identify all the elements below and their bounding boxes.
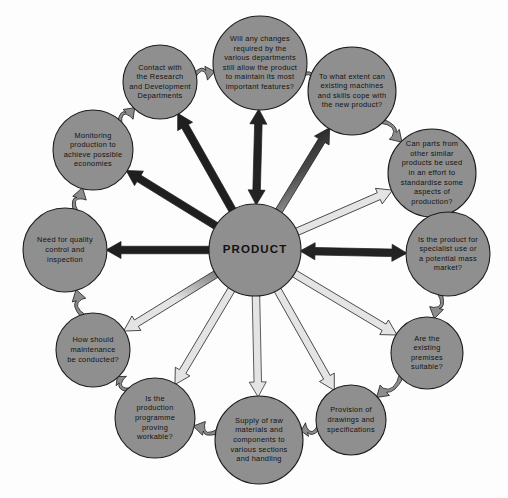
node-quality-control-inspection[interactable]: Need for qualitycontrol andinspection bbox=[23, 208, 107, 292]
node-label-maintenance-conducted: How shouldmaintenancebe conducted? bbox=[67, 335, 119, 363]
node-drawings-specifications[interactable]: Provision ofdrawings andspecifications bbox=[316, 385, 386, 455]
node-label-existing-premises: Are theexistingpremisessuitable? bbox=[411, 334, 443, 372]
node-specialist-or-mass-market[interactable]: Is the product forspecialist use ora pot… bbox=[406, 212, 490, 296]
spoke-arrow-standardise-parts bbox=[293, 182, 396, 239]
node-label-drawings-specifications: Provision ofdrawings andspecifications bbox=[327, 405, 375, 433]
ring-arrow-maintenance-conducted-to-quality-control-inspection bbox=[72, 289, 86, 317]
node-monitoring-production-economies[interactable]: Monitoringproduction toachieve possiblee… bbox=[53, 110, 133, 190]
spoke-arrow-changes-departments bbox=[248, 109, 268, 205]
node-label-product: PRODUCT bbox=[223, 243, 288, 255]
node-standardise-parts[interactable]: Can parts fromother similarproducts be u… bbox=[388, 129, 476, 217]
spoke-arrow-specialist-or-mass-market bbox=[300, 242, 407, 261]
node-label-existing-machines-skills: To what extent canexisting machinesand s… bbox=[318, 72, 387, 110]
spoke-arrow-quality-control-inspection bbox=[106, 242, 210, 259]
node-label-changes-departments: Will any changesrequired by thevarious d… bbox=[223, 34, 297, 91]
spoke-arrow-monitoring-production-economies bbox=[122, 163, 221, 233]
node-label-research-development-contact: Contact withthe Researchand DevelopmentD… bbox=[129, 63, 191, 101]
ring-arrow-specialist-or-mass-market-to-existing-premises bbox=[430, 293, 444, 319]
node-existing-machines-skills[interactable]: To what extent canexisting machinesand s… bbox=[308, 47, 396, 135]
radial-diagram: Will any changesrequired by thevarious d… bbox=[0, 0, 508, 498]
node-production-programme-workable[interactable]: Is theproductionprogrammeprovingworkable… bbox=[115, 378, 195, 458]
spoke-arrow-existing-premises bbox=[289, 266, 401, 342]
spoke-arrow-supply-raw-materials bbox=[247, 295, 266, 397]
node-label-supply-raw-materials: Supply of rawmaterials andcomponents tov… bbox=[231, 416, 288, 463]
spoke-arrow-research-development-contact bbox=[170, 109, 240, 215]
node-supply-raw-materials[interactable]: Supply of rawmaterials andcomponents tov… bbox=[215, 396, 303, 484]
node-existing-premises[interactable]: Are theexistingpremisessuitable? bbox=[391, 317, 463, 389]
nodes-layer: Will any changesrequired by thevarious d… bbox=[23, 16, 490, 484]
node-research-development-contact[interactable]: Contact withthe Researchand DevelopmentD… bbox=[123, 45, 197, 119]
node-maintenance-conducted[interactable]: How shouldmaintenancebe conducted? bbox=[56, 313, 130, 387]
spoke-arrow-drawings-specifications bbox=[270, 285, 342, 395]
diagram-canvas: Will any changesrequired by thevarious d… bbox=[0, 0, 508, 498]
ring-arrow-existing-premises-to-drawings-specifications bbox=[377, 373, 404, 397]
node-changes-departments[interactable]: Will any changesrequired by thevarious d… bbox=[213, 16, 307, 110]
node-product[interactable]: PRODUCT bbox=[209, 204, 301, 296]
spoke-arrow-existing-machines-skills bbox=[271, 123, 337, 216]
ring-arrow-supply-raw-materials-to-production-programme-workable bbox=[193, 421, 218, 435]
